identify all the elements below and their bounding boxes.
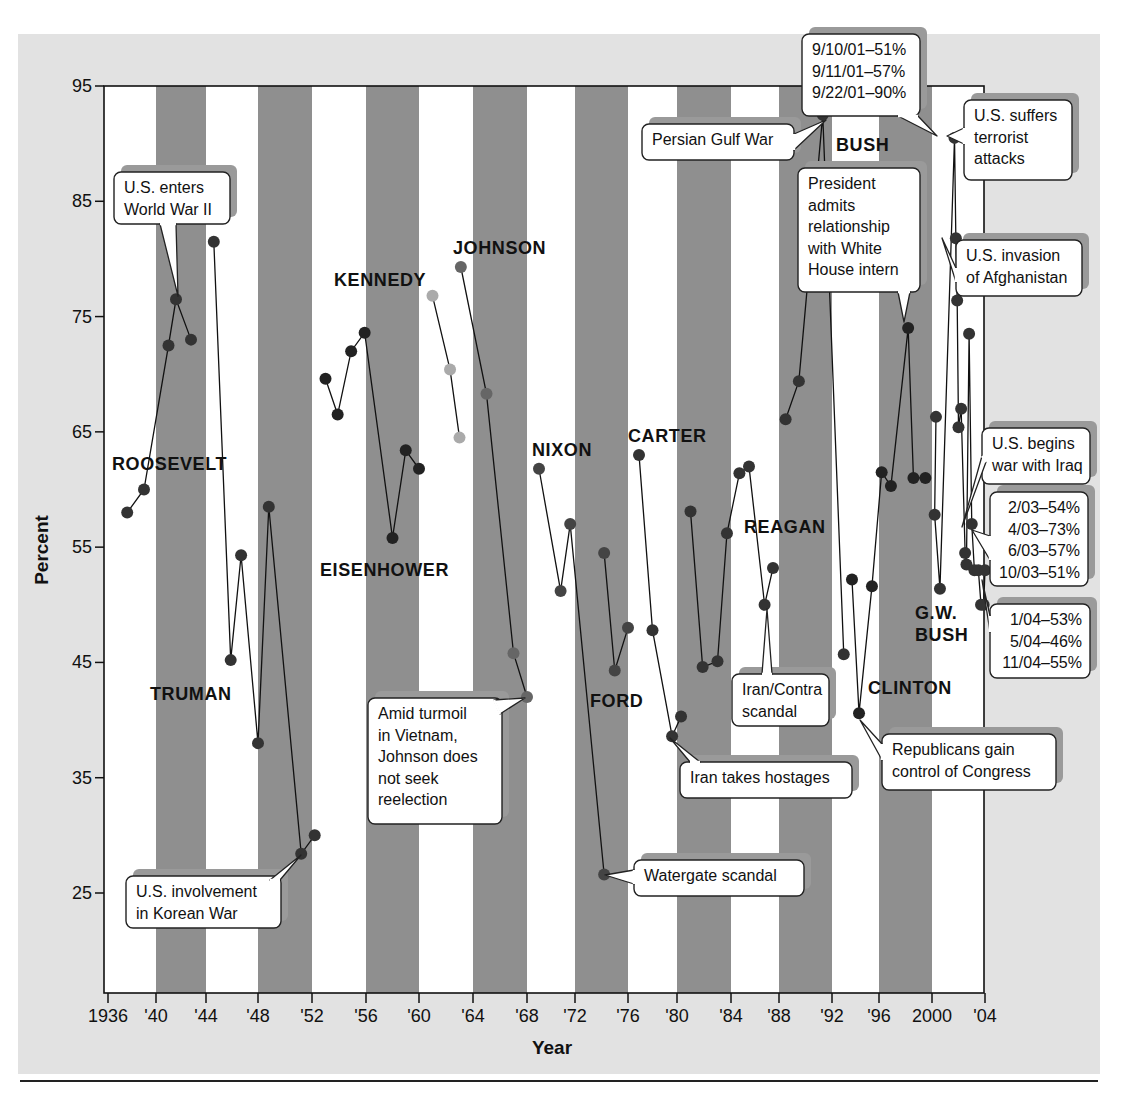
president-label: CLINTON	[868, 678, 952, 698]
data-point	[185, 334, 197, 346]
data-point	[919, 472, 931, 484]
data-point	[263, 501, 275, 513]
x-tick-label: '96	[867, 1006, 890, 1026]
x-tick-label: '48	[246, 1006, 269, 1026]
callout-terror: U.S. suffersterroristattacks	[947, 93, 1079, 180]
data-point	[138, 484, 150, 496]
callout-line: war with Iraq	[991, 457, 1083, 474]
data-point	[955, 403, 967, 415]
callout-line: admits	[808, 197, 855, 214]
x-tick-label: '72	[563, 1006, 586, 1026]
data-point	[345, 345, 357, 357]
data-point	[413, 463, 425, 475]
president-label: NIXON	[532, 440, 592, 460]
data-point	[712, 655, 724, 667]
data-point	[930, 411, 942, 423]
x-tick-label: '52	[300, 1006, 323, 1026]
president-label: BUSH	[836, 135, 889, 155]
data-point	[622, 622, 634, 634]
callout-line: 10/03–51%	[999, 564, 1080, 581]
x-tick-label: '56	[354, 1006, 377, 1026]
data-point	[163, 339, 175, 351]
y-axis-title: Percent	[31, 514, 52, 584]
callout-line: with White	[807, 240, 882, 257]
data-point	[979, 564, 991, 576]
data-point	[929, 509, 941, 521]
callout-line: U.S. begins	[992, 435, 1075, 452]
data-point	[885, 480, 897, 492]
data-point	[320, 373, 332, 385]
callout-line: 1/04–53%	[1010, 611, 1082, 628]
x-tick-label: '84	[719, 1006, 742, 1026]
callout-line: U.S. invasion	[966, 247, 1060, 264]
data-point	[743, 460, 755, 472]
callout-line: 9/11/01–57%	[812, 63, 905, 80]
data-point	[225, 654, 237, 666]
callout-line: 5/04–46%	[1010, 633, 1082, 650]
data-point	[959, 547, 971, 559]
callout-line: Watergate scandal	[644, 867, 777, 884]
callout-line: not seek	[378, 770, 439, 787]
data-point	[907, 472, 919, 484]
y-tick-label: 55	[72, 537, 92, 557]
data-point	[780, 413, 792, 425]
callout-line: U.S. suffers	[974, 107, 1057, 124]
term-band	[473, 86, 527, 993]
x-tick-label: '04	[973, 1006, 996, 1026]
data-point	[966, 518, 978, 530]
callout-line: Iran/Contra	[742, 681, 822, 698]
data-point	[208, 236, 220, 248]
data-point	[767, 562, 779, 574]
data-point	[481, 388, 493, 400]
data-point	[963, 328, 975, 340]
callout-pct2004: 1/04–53%5/04–46%11/04–55%	[982, 580, 1097, 678]
data-point	[252, 737, 264, 749]
data-point	[953, 421, 965, 433]
president-label: BUSH	[915, 625, 968, 645]
callout-line: Amid turmoil	[378, 705, 467, 722]
president-label: CARTER	[628, 426, 707, 446]
president-label: ROOSEVELT	[112, 454, 227, 474]
president-label: EISENHOWER	[320, 560, 449, 580]
callout-line: President	[808, 175, 876, 192]
callout-line: in Korean War	[136, 905, 238, 922]
callout-line: scandal	[742, 703, 797, 720]
president-label: KENNEDY	[334, 270, 426, 290]
data-point	[721, 527, 733, 539]
data-point	[866, 580, 878, 592]
data-point	[633, 449, 645, 461]
data-point	[846, 573, 858, 585]
data-point	[733, 467, 745, 479]
data-point	[647, 624, 659, 636]
data-point	[609, 664, 621, 676]
x-tick-label: '60	[407, 1006, 430, 1026]
president-label: JOHNSON	[453, 238, 546, 258]
data-point	[235, 549, 247, 561]
callout-line: 6/03–57%	[1008, 542, 1080, 559]
callout-line: in Vietnam,	[378, 727, 458, 744]
data-point	[564, 518, 576, 530]
callout-afghanistan: U.S. invasionof Afghanistan	[942, 233, 1089, 296]
callout-vietnam: Amid turmoilin Vietnam,Johnson doesnot s…	[368, 691, 525, 824]
data-point	[697, 661, 709, 673]
x-tick-label: '68	[515, 1006, 538, 1026]
y-tick-label: 45	[72, 652, 92, 672]
callout-line: 9/10/01–51%	[812, 41, 906, 58]
callout-line: World War II	[124, 201, 212, 218]
x-tick-label: '64	[461, 1006, 484, 1026]
callout-line: House intern	[808, 261, 899, 278]
data-point	[685, 505, 697, 517]
callout-line: relationship	[808, 218, 890, 235]
data-point	[533, 463, 545, 475]
data-point	[838, 648, 850, 660]
x-tick-label: '40	[144, 1006, 167, 1026]
y-tick-label: 65	[72, 422, 92, 442]
data-point	[170, 293, 182, 305]
x-tick-label: '92	[820, 1006, 843, 1026]
data-point	[759, 599, 771, 611]
callout-line: terrorist	[974, 129, 1029, 146]
callout-line: control of Congress	[892, 763, 1031, 780]
y-tick-label: 75	[72, 307, 92, 327]
callout-iraqpct: 2/03–54%4/03–73%6/03–57%10/03–51%	[972, 485, 1095, 586]
y-tick-label: 85	[72, 191, 92, 211]
